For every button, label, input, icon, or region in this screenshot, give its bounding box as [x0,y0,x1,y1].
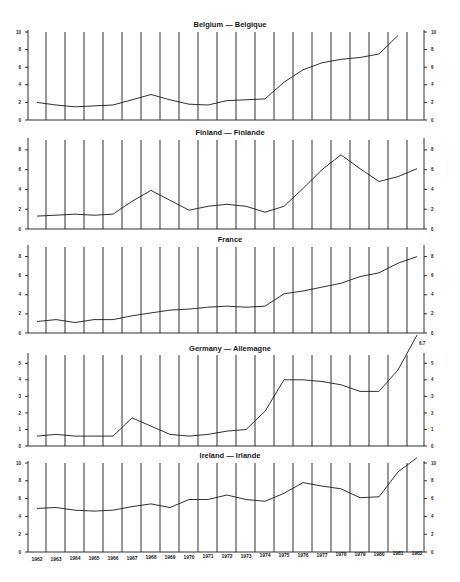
y-tick-label-right: 4 [431,187,434,192]
y-tick-label-left: 8 [18,147,21,152]
y-tick-label-left: 4 [18,82,21,87]
off-scale-annotation: 6.7 [419,341,426,346]
y-tick-label-right: 4 [431,82,434,87]
y-tick-label-right: 2 [431,532,434,537]
x-tick-label-year: 1969 [164,554,175,560]
y-tick-label-right: 2 [431,100,434,105]
panel-title: Germany — Allemagne [189,344,271,353]
panel-title: Ireland — Irlande [200,451,261,460]
y-tick-label-left: 6 [18,167,21,172]
y-tick-label-right: 8 [431,478,434,483]
x-tick-label-year: 1970 [183,554,194,560]
x-tick-label-year: 1966 [107,555,118,561]
y-tick-label-right: 1 [431,427,434,432]
x-tick-label-year: 1968 [145,554,156,560]
chart-panel-3: Germany — Allemagne0011223344556.7 [18,335,434,449]
y-tick-label-left: 0 [18,550,21,555]
x-tick-label-year: 1965 [88,555,99,561]
y-tick-label-left: 5 [18,361,21,366]
x-tick-label-year: 1979 [354,551,365,557]
x-tick-label-year: 1963 [50,556,61,562]
y-tick-label-left: 2 [18,100,21,105]
series-line [37,257,417,323]
x-tick-label-year: 1980 [373,551,384,557]
y-tick-label-right: 6 [431,167,434,172]
y-tick-label-right: 8 [431,147,434,152]
x-tick-label-year: 1964 [69,555,80,561]
y-tick-label-left: 6 [18,65,21,70]
chart-panel-0: Belgium — Belgique00224466881010 [16,20,437,123]
y-tick-label-left: 6 [18,496,21,501]
y-tick-label-left: 4 [18,514,21,519]
x-tick-label-year: 1967 [126,555,137,561]
y-tick-label-right: 0 [431,118,434,123]
y-tick-label-left: 10 [16,30,22,35]
chart-panel-2: France0022446688 [18,235,434,336]
y-tick-label-right: 4 [431,377,434,382]
y-tick-label-left: 6 [18,273,21,278]
y-tick-label-right: 6 [431,65,434,70]
y-tick-label-left: 0 [18,118,21,123]
y-tick-label-right: 4 [431,292,434,297]
y-tick-label-left: 4 [18,187,21,192]
x-tick-label-year: 1975 [278,552,289,558]
y-tick-label-left: 4 [18,377,21,382]
y-tick-label-right: 6 [431,273,434,278]
y-tick-label-left: 2 [18,207,21,212]
y-tick-label-left: 0 [18,444,21,449]
x-tick-label-year: 1981 [392,550,403,556]
y-tick-label-right: 0 [431,444,434,449]
y-tick-label-right: 3 [431,394,434,399]
x-tick-label-year: 1976 [297,552,308,558]
y-tick-label-left: 0 [18,227,21,232]
y-tick-label-right: 6 [431,496,434,501]
y-tick-label-right: 8 [431,254,434,259]
y-tick-label-right: 0 [431,331,434,336]
y-tick-label-right: 2 [431,207,434,212]
chart-panel-4: Ireland — Irlande00224466881010 [16,451,437,555]
y-tick-label-left: 8 [18,254,21,259]
y-tick-label-left: 0 [18,331,21,336]
y-tick-label-right: 2 [431,311,434,316]
y-tick-label-right: 5 [431,361,434,366]
x-tick-label-year: 1982 [411,550,422,556]
y-tick-label-left: 8 [18,47,21,52]
y-tick-label-left: 2 [18,311,21,316]
y-tick-label-right: 4 [431,514,434,519]
y-tick-label-right: 2 [431,411,434,416]
series-line [37,36,398,107]
x-tick-label-year: 1978 [335,551,346,557]
x-tick-label-year: 1971 [202,553,213,559]
y-tick-label-left: 4 [18,292,21,297]
x-tick-label-year: 1977 [316,552,327,558]
y-tick-label-left: 2 [18,411,21,416]
y-tick-label-left: 3 [18,394,21,399]
y-tick-label-left: 8 [18,478,21,483]
y-tick-label-right: 0 [431,227,434,232]
panel-title: France [218,235,243,244]
x-tick-label-year: 1974 [259,552,270,558]
unemployment-chart-figure: Belgium — Belgique00224466881010Finland … [0,0,460,582]
x-tick-label-year: 1962 [31,556,42,562]
x-tick-label-year: 1973 [240,553,251,559]
y-tick-label-left: 10 [16,461,22,466]
y-tick-label-right: 0 [431,550,434,555]
y-tick-label-right: 10 [431,461,437,466]
panel-title: Belgium — Belgique [194,20,267,29]
y-tick-label-right: 8 [431,47,434,52]
x-tick-label-year: 1972 [221,553,232,559]
y-tick-label-left: 1 [18,427,21,432]
chart-canvas: Belgium — Belgique00224466881010Finland … [0,0,460,582]
series-line [37,155,417,216]
series-line [37,458,417,511]
panel-title: Finland — Finlande [195,128,264,137]
y-tick-label-right: 10 [431,30,437,35]
y-tick-label-left: 2 [18,532,21,537]
chart-panel-1: Finland — Finlande0022446688 [18,128,434,232]
